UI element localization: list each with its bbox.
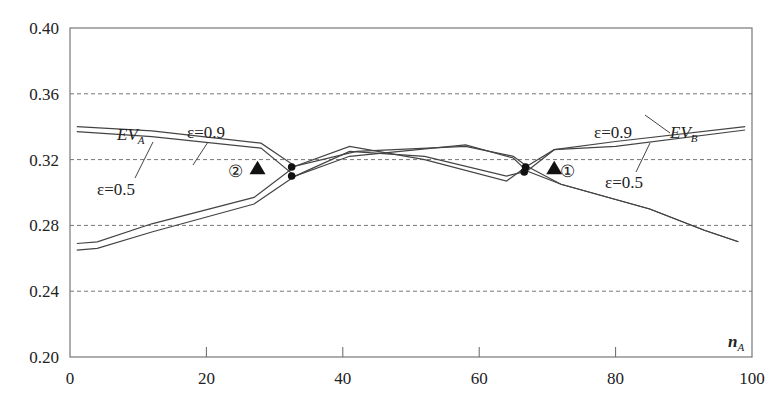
plot-frame — [70, 28, 752, 357]
marker-1-label: ① — [560, 162, 575, 181]
series-lines — [77, 127, 745, 250]
intersection-dot — [520, 168, 528, 176]
leader-line — [193, 142, 208, 165]
triangle-marker-icon — [250, 161, 266, 175]
x-tick-label: 60 — [471, 369, 488, 388]
x-tick-label: 20 — [198, 369, 215, 388]
y-tick-label: 0.36 — [29, 85, 59, 104]
eps-09-right-label: ε=0.9 — [594, 123, 632, 142]
y-tick-label: 0.32 — [29, 151, 59, 170]
x-tick-label: 0 — [66, 369, 75, 388]
y-tick-label: 0.24 — [29, 282, 59, 301]
intersection-dot — [288, 163, 296, 171]
x-axis-label: nA — [728, 332, 744, 353]
ev-b-label: EVB — [669, 123, 698, 144]
line-chart: 020406080100 0.200.240.280.320.360.40 EV… — [0, 0, 774, 411]
y-tick-label: 0.28 — [29, 216, 59, 235]
series-line — [77, 130, 745, 250]
annotations: EVA ε=0.9 ε=0.5 ε=0.9 EVB ε=0.5 ② ① nA — [97, 115, 744, 353]
y-tick-label: 0.40 — [29, 19, 59, 38]
y-axis-ticks: 0.200.240.280.320.360.40 — [29, 19, 59, 367]
leader-line — [645, 115, 670, 133]
intersection-dot — [288, 172, 296, 180]
markers — [250, 161, 563, 180]
eps-05-right-label: ε=0.5 — [605, 173, 643, 192]
gridlines — [70, 94, 752, 291]
x-tick-label: 80 — [607, 369, 624, 388]
eps-05-left-label: ε=0.5 — [97, 180, 135, 199]
ev-a-label: EVA — [116, 125, 145, 146]
y-tick-label: 0.20 — [29, 348, 59, 367]
x-tick-label: 40 — [334, 369, 351, 388]
x-tick-label: 100 — [739, 369, 765, 388]
eps-09-left-label: ε=0.9 — [187, 123, 225, 142]
leader-line — [636, 143, 650, 172]
x-axis-ticks: 020406080100 — [66, 347, 765, 388]
marker-2-label: ② — [228, 162, 243, 181]
series-line — [77, 127, 745, 244]
